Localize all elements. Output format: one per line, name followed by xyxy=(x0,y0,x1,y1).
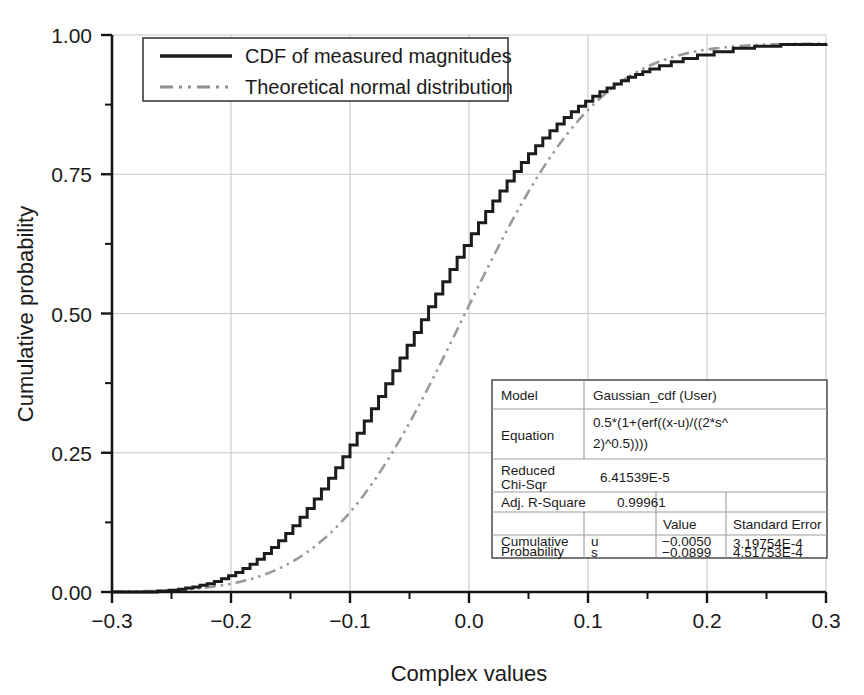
legend-label-theoretical: Theoretical normal distribution xyxy=(245,76,513,98)
chart-legend: CDF of measured magnitudes Theoretical n… xyxy=(143,38,513,101)
cdf-chart-figure: −0.3−0.2−0.10.00.10.20.3 0.000.250.500.7… xyxy=(0,0,864,695)
table-cell-equation-line1: 0.5*(1+(erf((x-u)/((2*s^ xyxy=(593,415,729,430)
x-tick-label: 0.2 xyxy=(692,609,721,632)
table-cell-equation-line2: 2)^0.5)))) xyxy=(593,436,648,451)
y-tick-label: 1.00 xyxy=(51,24,92,47)
fit-parameter-table: Model Gaussian_cdf (User) Equation 0.5*(… xyxy=(492,380,827,560)
table-cell-chisqr-label-1: Reduced xyxy=(501,463,555,478)
table-header-standard-error: Standard Error xyxy=(733,517,822,532)
table-cell-rsquare-value: 0.99961 xyxy=(617,495,666,510)
y-tick-label: 0.00 xyxy=(51,581,92,604)
chart-canvas: −0.3−0.2−0.10.00.10.20.3 0.000.250.500.7… xyxy=(0,0,864,695)
y-tick-label: 0.50 xyxy=(51,303,92,326)
y-tick-label: 0.25 xyxy=(51,442,92,465)
y-tick-label: 0.75 xyxy=(51,163,92,186)
x-tick-label: −0.3 xyxy=(91,609,132,632)
legend-label-empirical: CDF of measured magnitudes xyxy=(245,45,512,67)
table-cell-equation-label: Equation xyxy=(501,428,554,443)
table-cell-model-label: Model xyxy=(501,388,538,403)
table-cell-param2-name: s xyxy=(591,545,598,560)
table-cell-rsquare-label: Adj. R-Square xyxy=(501,495,586,510)
table-cell-group-2: Probability xyxy=(501,544,564,559)
x-tick-label: −0.1 xyxy=(329,609,370,632)
table-cell-model-value: Gaussian_cdf (User) xyxy=(593,388,717,403)
table-cell-param2-value: −0.0899 xyxy=(662,545,711,560)
table-cell-chisqr-value: 6.41539E-5 xyxy=(600,470,670,485)
y-axis-title: Cumulative probability xyxy=(13,206,38,422)
x-tick-label: 0.3 xyxy=(811,609,840,632)
x-tick-label: 0.1 xyxy=(573,609,602,632)
table-header-value: Value xyxy=(663,517,697,532)
x-tick-label: −0.2 xyxy=(210,609,251,632)
table-cell-chisqr-label-2: Chi-Sqr xyxy=(501,477,547,492)
x-tick-label: 0.0 xyxy=(454,609,483,632)
table-cell-param2-error: 4.51753E-4 xyxy=(733,545,803,560)
x-axis-title: Complex values xyxy=(391,661,548,686)
